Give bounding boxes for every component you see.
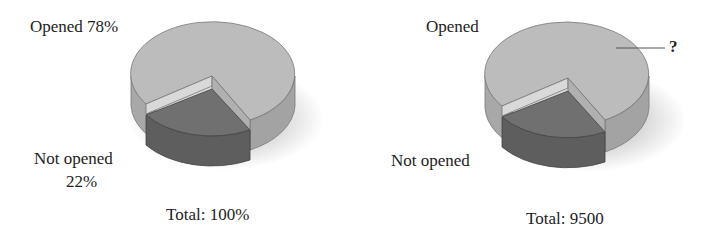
total-right: Total: 9500 (526, 210, 604, 227)
label-not-opened-pct-left: 22% (66, 173, 97, 190)
pie-chart-left (128, 22, 324, 170)
total-left: Total: 100% (166, 206, 249, 223)
pie-chart-right (485, 22, 686, 172)
label-opened-right: Opened (426, 18, 479, 35)
label-opened-left: Opened 78% (30, 18, 118, 35)
label-not-opened-right: Not opened (391, 152, 470, 169)
label-not-opened-left: Not opened (34, 150, 113, 167)
question-annotation: ? (669, 38, 678, 55)
